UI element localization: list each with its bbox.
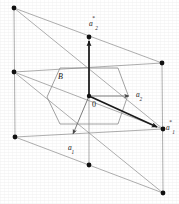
label-a1-star: a*1 bbox=[166, 124, 175, 132]
vector-a1 bbox=[73, 96, 89, 134]
diagram-canvas bbox=[0, 0, 179, 204]
label-a2: a2 bbox=[136, 91, 142, 99]
lattice-point-top-center bbox=[87, 35, 92, 40]
lattice-line-diag-upper bbox=[14, 63, 162, 72]
label-a2-star: a*2 bbox=[89, 20, 98, 28]
label-a1: a1 bbox=[68, 144, 74, 152]
lattice-point-bottom-left bbox=[13, 135, 18, 140]
vector-a1-star bbox=[89, 96, 157, 127]
lattice-diagram: a*2 a*1 a2 a1 B 0 bbox=[0, 0, 179, 204]
lattice-point-mid-left bbox=[12, 70, 17, 75]
lattice-point-top-left bbox=[12, 6, 17, 11]
lattice-point-origin bbox=[87, 94, 91, 98]
lattice-point-bottom-right bbox=[161, 191, 166, 196]
lattice-point-mid-right bbox=[160, 61, 165, 66]
lattice-point-bottom-center bbox=[87, 163, 92, 168]
lattice-point-right-star bbox=[161, 127, 166, 132]
label-brillouin-zone: B bbox=[58, 73, 63, 81]
label-origin: 0 bbox=[92, 101, 96, 109]
